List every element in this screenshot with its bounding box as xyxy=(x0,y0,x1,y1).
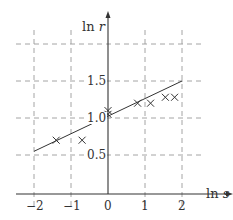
axes xyxy=(16,11,233,197)
x-axis-label-var: s xyxy=(223,186,230,201)
y-tick-label: 1.5 xyxy=(86,75,107,87)
x-axis-label: ln s xyxy=(206,187,229,200)
y-tick-label: 0.5 xyxy=(86,149,107,161)
data-point-x-marker xyxy=(171,94,178,101)
y-axis-label-fn: ln xyxy=(82,19,95,34)
data-points xyxy=(53,94,178,144)
y-axis-label: ln r xyxy=(82,20,105,33)
data-point-x-marker xyxy=(79,137,86,144)
data-point-x-marker xyxy=(162,94,169,101)
x-axis-label-fn: ln xyxy=(206,186,219,201)
y-tick-label: 1.0 xyxy=(86,112,107,124)
data-point-x-marker xyxy=(147,100,154,107)
scatter-chart xyxy=(0,0,233,220)
x-tick-label: 1 xyxy=(141,200,149,212)
grid-lines xyxy=(16,30,205,210)
x-tick-label: 0 xyxy=(104,200,112,212)
x-tick-label: −2 xyxy=(26,200,44,212)
x-tick-label: 2 xyxy=(178,200,186,212)
data-point-x-marker xyxy=(53,137,60,144)
y-axis-arrow-icon xyxy=(106,11,111,18)
y-axis-label-var: r xyxy=(99,19,105,34)
x-tick-label: −1 xyxy=(63,200,81,212)
